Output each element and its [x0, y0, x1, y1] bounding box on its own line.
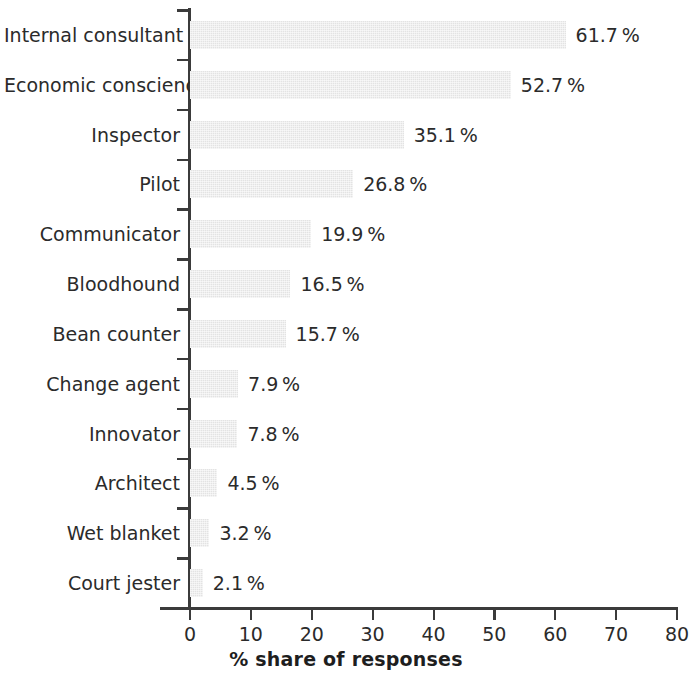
- bar-row: 52.7 %: [190, 71, 677, 99]
- bar-value-label: 2.1 %: [213, 572, 265, 594]
- bar-row: 3.2 %: [190, 519, 677, 547]
- category-axis-labels: Internal consultantEconomic conscienceIn…: [0, 0, 180, 677]
- category-label: Economic conscience: [4, 73, 180, 97]
- bar-value-label: 15.7 %: [296, 323, 360, 345]
- x-axis-tick-label: 30: [361, 622, 385, 646]
- bar: [190, 519, 209, 547]
- bar-row: 61.7 %: [190, 21, 677, 49]
- bar-row: 15.7 %: [190, 320, 677, 348]
- y-axis-tick: [177, 358, 190, 361]
- bar: [190, 469, 217, 497]
- bar-value-label: 61.7 %: [576, 24, 640, 46]
- bar-row: 35.1 %: [190, 121, 677, 149]
- category-label: Bean counter: [4, 322, 180, 346]
- x-axis-tick: [554, 609, 556, 620]
- y-axis-tick: [177, 109, 190, 112]
- category-label: Change agent: [4, 372, 180, 396]
- bar-row: 26.8 %: [190, 170, 677, 198]
- y-axis-tick: [177, 458, 190, 461]
- category-label: Court jester: [4, 571, 180, 595]
- x-axis-tick: [433, 609, 435, 620]
- x-axis-tick: [615, 609, 617, 620]
- bar-value-label: 26.8 %: [363, 173, 427, 195]
- x-axis-tick-label: 10: [239, 622, 263, 646]
- x-axis-tick: [250, 609, 252, 620]
- bar: [190, 170, 353, 198]
- bar-chart: Internal consultantEconomic conscienceIn…: [0, 0, 692, 677]
- y-axis-tick: [177, 208, 190, 211]
- plot-area: 61.7 %52.7 %35.1 %26.8 %19.9 %16.5 %15.7…: [190, 10, 677, 608]
- category-label: Bloodhound: [4, 272, 180, 296]
- y-axis-tick: [177, 258, 190, 261]
- x-axis-tick-label: 20: [300, 622, 324, 646]
- bar-row: 16.5 %: [190, 270, 677, 298]
- y-axis-tick: [177, 159, 190, 162]
- y-axis-tick: [177, 59, 190, 62]
- y-axis-tick: [177, 9, 190, 12]
- y-axis-tick: [177, 557, 190, 560]
- x-axis-tick-label: 70: [604, 622, 628, 646]
- x-axis-tick-label: 50: [482, 622, 506, 646]
- bar-row: 19.9 %: [190, 220, 677, 248]
- bar-value-label: 35.1 %: [414, 124, 478, 146]
- x-axis-tick-label: 60: [543, 622, 567, 646]
- bar: [190, 121, 404, 149]
- bar-value-label: 3.2 %: [219, 522, 271, 544]
- bar: [190, 370, 238, 398]
- x-axis-title: % share of responses: [0, 648, 692, 670]
- x-axis-tick: [189, 609, 191, 620]
- bar-value-label: 7.8 %: [247, 423, 299, 445]
- bar-value-label: 4.5 %: [227, 472, 279, 494]
- bar: [190, 21, 566, 49]
- category-label: Inspector: [4, 123, 180, 147]
- x-axis-tick: [311, 609, 313, 620]
- x-axis-tick: [493, 609, 495, 620]
- bar: [190, 71, 511, 99]
- x-axis-tick-label: 0: [184, 622, 196, 646]
- category-label: Pilot: [4, 172, 180, 196]
- category-label: Internal consultant: [4, 23, 180, 47]
- bar-row: 7.9 %: [190, 370, 677, 398]
- bar-row: 2.1 %: [190, 569, 677, 597]
- x-axis-tick: [676, 609, 678, 620]
- bar-row: 7.8 %: [190, 420, 677, 448]
- y-axis-tick: [177, 308, 190, 311]
- bar-value-label: 16.5 %: [300, 273, 364, 295]
- category-label: Architect: [4, 471, 180, 495]
- category-label: Innovator: [4, 422, 180, 446]
- bar: [190, 270, 290, 298]
- bar-value-label: 19.9 %: [321, 223, 385, 245]
- y-axis-tick: [177, 408, 190, 411]
- bar: [190, 220, 311, 248]
- bar: [190, 320, 286, 348]
- x-axis-tick-label: 40: [421, 622, 445, 646]
- category-label: Wet blanket: [4, 521, 180, 545]
- y-axis-tick: [177, 507, 190, 510]
- bar-value-label: 52.7 %: [521, 74, 585, 96]
- bar: [190, 420, 237, 448]
- bar: [190, 569, 203, 597]
- x-axis-tick: [372, 609, 374, 620]
- x-axis-tick-label: 80: [665, 622, 689, 646]
- category-label: Communicator: [4, 222, 180, 246]
- bar-value-label: 7.9 %: [248, 373, 300, 395]
- bar-row: 4.5 %: [190, 469, 677, 497]
